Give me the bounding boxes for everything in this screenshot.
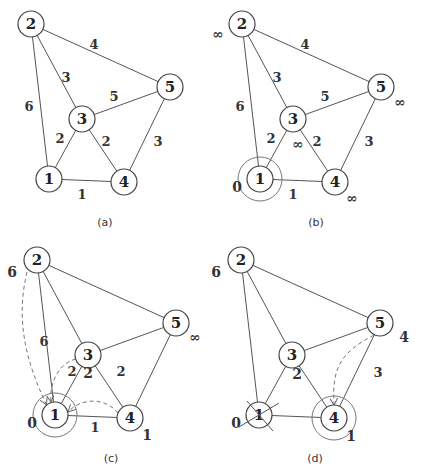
edge-2-3	[43, 271, 82, 343]
caption-d: (d)	[307, 452, 323, 465]
node-label-5: 5	[165, 78, 175, 96]
edge-weight-1-2: 6	[39, 334, 48, 349]
caption-c: (c)	[104, 452, 119, 465]
edge-1-2	[242, 273, 257, 402]
distance-label-4: 1	[142, 427, 152, 443]
panel-c: 6212102632415∞(c)	[7, 247, 201, 465]
edge-3-5	[304, 327, 368, 350]
panel-d: 31026324154(d)	[211, 247, 409, 465]
node-label-3: 3	[77, 110, 87, 128]
edge-1-4	[68, 416, 117, 418]
distance-label-5: ∞	[394, 94, 406, 110]
edge-2-5	[43, 29, 158, 81]
edge-1-4	[62, 180, 111, 182]
distance-label-5: 4	[399, 329, 409, 345]
edge-4-5	[340, 335, 375, 407]
edge-weight-3-5: 5	[320, 89, 329, 104]
distance-label-1: 0	[232, 179, 242, 195]
node-label-3: 3	[288, 110, 298, 128]
node-label-2: 2	[237, 15, 247, 33]
dijkstra-figure: 6213425312345(a)62134253102∞3∞4∞5∞(b)621…	[0, 0, 423, 474]
panel-b: 62134253102∞3∞4∞5∞(b)	[212, 11, 406, 229]
node-label-2: 2	[236, 251, 246, 269]
edge-weight-1-2: 6	[24, 99, 33, 114]
edge-3-4	[299, 366, 327, 407]
node-label-1: 1	[50, 406, 60, 424]
edge-1-4	[273, 180, 322, 182]
edge-weight-2-5: 4	[89, 37, 98, 52]
edge-weight-2-3: 3	[61, 70, 70, 85]
caption-b: (b)	[308, 216, 324, 229]
distance-label-3: ∞	[292, 136, 304, 152]
panel-a: 6213425312345(a)	[18, 11, 183, 229]
node-label-4: 4	[119, 173, 129, 191]
edge-weight-1-4: 1	[77, 187, 86, 202]
node-label-4: 4	[329, 409, 339, 427]
edge-weight-2-5: 4	[300, 37, 309, 52]
edge-weight-2-3: 3	[272, 70, 281, 85]
node-label-1: 1	[255, 170, 265, 188]
edge-weight-1-4: 1	[288, 187, 297, 202]
edge-1-2	[243, 37, 258, 166]
distance-label-1: 0	[231, 415, 241, 431]
distance-label-3: 2	[83, 365, 93, 381]
edge-2-3	[247, 271, 286, 343]
edge-weight-4-5: 3	[364, 134, 373, 149]
edge-weight-3-5: 5	[109, 89, 118, 104]
distance-label-4: ∞	[346, 190, 358, 206]
edge-weight-1-3: 2	[67, 364, 76, 379]
edge-3-5	[305, 91, 369, 114]
edge-weight-1-3: 2	[55, 131, 64, 146]
node-label-4: 4	[125, 409, 135, 427]
distance-label-5: ∞	[189, 329, 201, 345]
distance-label-2: 6	[7, 264, 17, 280]
distance-label-1: 0	[27, 415, 37, 431]
edge-weight-1-2: 6	[235, 99, 244, 114]
node-label-3: 3	[83, 346, 93, 364]
edge-1-2	[32, 37, 47, 166]
node-label-5: 5	[171, 314, 181, 332]
edge-1-3	[265, 366, 285, 403]
distance-label-3: 2	[292, 366, 302, 382]
edge-3-5	[100, 327, 164, 350]
edge-3-5	[94, 91, 158, 114]
edge-weight-1-4: 1	[90, 420, 99, 435]
edge-weight-4-5: 3	[373, 365, 382, 380]
edge-weight-1-3: 2	[266, 131, 275, 146]
distance-label-4: 1	[346, 428, 356, 444]
pred-arrow-5-4	[334, 335, 374, 404]
distance-label-2: 6	[211, 264, 221, 280]
edge-weight-3-4: 2	[312, 134, 321, 149]
edge-2-5	[49, 265, 164, 317]
node-label-4: 4	[330, 173, 340, 191]
edge-weight-3-4: 2	[116, 364, 125, 379]
node-label-2: 2	[32, 251, 42, 269]
edge-4-5	[136, 335, 171, 407]
node-label-5: 5	[376, 78, 386, 96]
caption-a: (a)	[97, 216, 112, 229]
node-label-5: 5	[375, 314, 385, 332]
node-label-2: 2	[26, 15, 36, 33]
node-label-3: 3	[287, 346, 297, 364]
edge-2-5	[254, 29, 369, 81]
node-label-1: 1	[44, 170, 54, 188]
distance-label-2: ∞	[212, 26, 224, 42]
edge-1-4	[272, 416, 321, 418]
edge-weight-3-4: 2	[101, 134, 110, 149]
edge-2-5	[253, 265, 368, 317]
edge-weight-4-5: 3	[153, 134, 162, 149]
